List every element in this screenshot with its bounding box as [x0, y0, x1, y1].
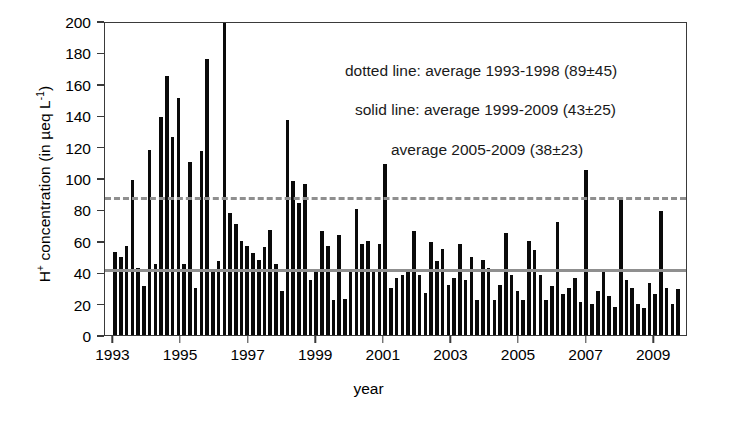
bar [584, 170, 588, 335]
y-axis-title-superscript-exponent: -1 [35, 91, 46, 100]
x-axis-tick-mark [382, 336, 383, 343]
y-axis-tick-label: 120 [65, 140, 91, 158]
y-axis-tick-mark [97, 335, 104, 336]
bar [642, 308, 646, 335]
y-axis-tick-mark [97, 178, 104, 179]
bar [165, 76, 169, 335]
bar [349, 272, 353, 335]
bar [550, 286, 554, 335]
bar [113, 252, 117, 335]
bar [228, 213, 232, 335]
bar [200, 151, 204, 335]
bar [452, 278, 456, 335]
bar [607, 296, 611, 335]
bar [441, 249, 445, 335]
x-axis-tick-mark [179, 336, 180, 343]
y-axis-tick-label: 20 [74, 297, 91, 315]
bar [360, 244, 364, 335]
bar [372, 272, 376, 335]
bar [533, 250, 537, 335]
y-axis-title-middle: concentration (in µeq L [36, 100, 53, 265]
bar [406, 269, 410, 335]
reference-line-dashed [105, 197, 686, 200]
x-axis-tick-mark [517, 336, 518, 343]
y-axis-tick-label: 60 [74, 234, 91, 252]
bar [573, 278, 577, 335]
bar [383, 164, 387, 335]
bar [314, 271, 318, 335]
y-axis-title-superscript-plus: + [35, 265, 46, 271]
bar [332, 300, 336, 335]
x-axis-tick-label: 1993 [95, 346, 129, 364]
bar [337, 235, 341, 335]
y-axis-tick-label: 160 [65, 77, 91, 95]
bar [366, 241, 370, 335]
y-axis-tick-label: 200 [65, 14, 91, 32]
bar [596, 291, 600, 335]
x-axis-title: year [0, 380, 737, 398]
bar [142, 286, 146, 335]
bar [539, 275, 543, 335]
bar [665, 288, 669, 335]
bar [424, 293, 428, 335]
x-axis-tick-label: 1999 [298, 346, 332, 364]
bar [280, 291, 284, 335]
x-axis-tick-label: 2005 [501, 346, 535, 364]
bar [447, 285, 451, 335]
y-axis-tick-label: 80 [74, 202, 91, 220]
bar [498, 285, 502, 335]
bar [148, 150, 152, 335]
y-axis-tick-mark [97, 210, 104, 211]
x-axis-tick-mark [450, 336, 451, 343]
bar [119, 257, 123, 336]
bar [470, 257, 474, 336]
bar [521, 300, 525, 335]
y-axis-tick-mark [97, 84, 104, 85]
bar [464, 280, 468, 335]
bar [602, 269, 606, 335]
y-axis-tick-mark [97, 241, 104, 242]
bar [653, 294, 657, 335]
bar [136, 268, 140, 336]
y-axis-tick-label: 180 [65, 45, 91, 63]
bar [234, 224, 238, 335]
bar [527, 241, 531, 335]
bar [154, 264, 158, 335]
y-axis-tick-mark [97, 273, 104, 274]
bar [544, 300, 548, 335]
y-axis-tick-mark [97, 304, 104, 305]
y-axis-tick-label: 140 [65, 108, 91, 126]
x-axis-tick-mark [315, 336, 316, 343]
bar [303, 184, 307, 335]
x-axis-tick-mark [112, 336, 113, 343]
annotation-solid-line: solid line: average 1999-2009 (43±25) [355, 101, 616, 119]
x-axis-tick-label: 2001 [366, 346, 400, 364]
bar [389, 288, 393, 335]
bar [274, 264, 278, 335]
bar [223, 22, 227, 335]
bar [343, 299, 347, 335]
bar [263, 247, 267, 335]
bar [556, 222, 560, 335]
bar [245, 246, 249, 335]
bar [320, 231, 324, 335]
bar [177, 98, 181, 335]
reference-line-solid [105, 269, 686, 272]
bar [671, 304, 675, 335]
bar [493, 300, 497, 335]
x-axis-tick-label: 1997 [230, 346, 264, 364]
bar [326, 246, 330, 335]
bar [458, 244, 462, 335]
bar [268, 230, 272, 335]
bar [648, 283, 652, 335]
bar [510, 275, 514, 335]
y-axis-tick-label: 0 [82, 328, 91, 346]
bar [188, 162, 192, 335]
bar [412, 231, 416, 335]
bar [590, 304, 594, 335]
bar [131, 180, 135, 335]
bar [401, 275, 405, 335]
bar [251, 253, 255, 335]
y-axis-title-prefix: H [36, 271, 53, 282]
bar [561, 294, 565, 335]
